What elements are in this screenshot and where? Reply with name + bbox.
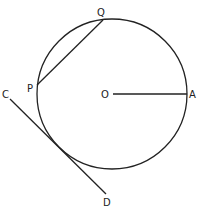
tangent-cd — [10, 99, 106, 194]
label-a: A — [189, 89, 196, 100]
label-o: O — [101, 89, 109, 100]
label-d: D — [103, 197, 111, 208]
label-p: P — [27, 83, 33, 94]
geometry-diagram: Q P O A C D — [0, 0, 199, 214]
label-c: C — [2, 89, 9, 100]
chord-pq — [37, 20, 103, 85]
label-q: Q — [97, 7, 105, 18]
